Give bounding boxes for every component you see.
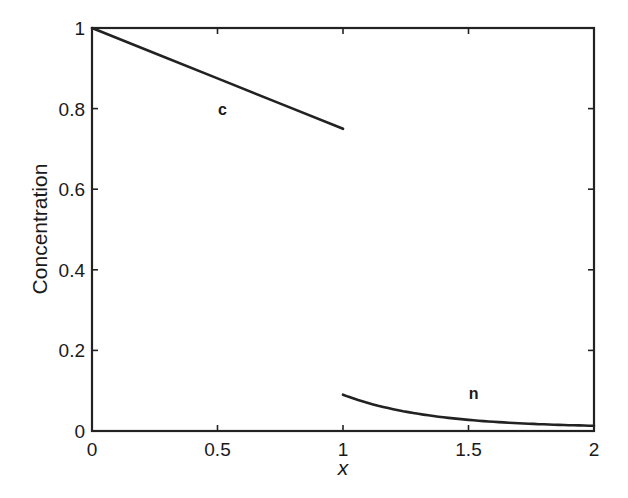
x-tick-label: 2 (589, 439, 600, 460)
x-tick-label: 0 (87, 439, 98, 460)
tick-labels: 00.511.5200.20.40.60.81 (59, 18, 600, 460)
y-tick-label: 0 (74, 421, 85, 442)
axis-ticks (92, 28, 594, 431)
y-tick-label: 1 (74, 18, 85, 39)
concentration-chart: 00.511.5200.20.40.60.81 x Concentration … (0, 0, 628, 498)
data-series (92, 28, 594, 426)
y-tick-label: 0.8 (59, 99, 85, 120)
x-tick-label: 1.5 (455, 439, 481, 460)
y-tick-label: 0.4 (59, 260, 86, 281)
plot-frame (92, 28, 594, 431)
curve-label-n: n (469, 385, 479, 402)
y-tick-label: 0.6 (59, 179, 85, 200)
curve-label-c: c (218, 101, 227, 118)
x-tick-label: 0.5 (204, 439, 230, 460)
curve-labels: cn (218, 101, 478, 402)
y-tick-label: 0.2 (59, 340, 85, 361)
y-axis-label: Concentration (28, 164, 51, 295)
x-axis-label: x (337, 456, 350, 479)
